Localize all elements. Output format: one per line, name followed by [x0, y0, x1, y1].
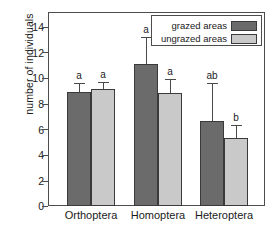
- y-tick-label-0: 0: [14, 201, 44, 212]
- legend: grazed areas ungrazed areas: [151, 15, 262, 46]
- bar-orthoptera-grazed[interactable]: [67, 92, 91, 206]
- bar-homoptera-ungrazed[interactable]: [158, 93, 182, 206]
- y-tick-label-12: 12: [14, 48, 44, 59]
- errorbar-cap-orthoptera-ungrazed: [98, 82, 109, 83]
- legend-item-grazed[interactable]: grazed areas: [152, 19, 261, 32]
- errorbar-cap-heteroptera-ungrazed: [231, 125, 242, 126]
- y-tick-label-4: 4: [14, 150, 44, 161]
- sig-letter-orthoptera-ungrazed: a: [93, 70, 113, 80]
- bar-heteroptera-ungrazed[interactable]: [224, 138, 248, 206]
- sig-letter-homoptera-ungrazed: a: [160, 67, 180, 77]
- legend-swatch-grazed-icon: [231, 21, 257, 31]
- errorbar-heteroptera-grazed: [212, 83, 213, 121]
- bar-heteroptera-grazed[interactable]: [200, 121, 224, 206]
- x-axis-label-heteroptera: Heteroptera: [184, 209, 264, 221]
- y-tick-label-8: 8: [14, 99, 44, 110]
- errorbar-orthoptera-grazed: [79, 83, 80, 92]
- bar-homoptera-grazed[interactable]: [134, 64, 158, 206]
- legend-label-ungrazed: ungrazed areas: [161, 34, 231, 44]
- sig-letter-orthoptera-grazed: a: [69, 71, 89, 81]
- y-tick-label-2: 2: [14, 176, 44, 187]
- legend-swatch-ungrazed-icon: [231, 34, 257, 44]
- bar-chart-figure: number of individuals 14 12 10 8 6 4 2 0…: [0, 0, 277, 235]
- sig-letter-heteroptera-grazed: ab: [201, 71, 223, 81]
- errorbar-cap-heteroptera-grazed: [207, 83, 218, 84]
- errorbar-orthoptera-ungrazed: [103, 82, 104, 89]
- legend-item-ungrazed[interactable]: ungrazed areas: [152, 32, 261, 45]
- sig-letter-heteroptera-ungrazed: b: [226, 113, 246, 123]
- errorbar-cap-orthoptera-grazed: [74, 83, 85, 84]
- y-tick-label-14: 14: [14, 22, 44, 33]
- legend-label-grazed: grazed areas: [172, 21, 231, 31]
- errorbar-homoptera-grazed: [146, 37, 147, 64]
- y-tick-label-10: 10: [14, 73, 44, 84]
- errorbar-heteroptera-ungrazed: [236, 125, 237, 138]
- errorbar-cap-homoptera-ungrazed: [165, 79, 176, 80]
- y-tick-label-6: 6: [14, 125, 44, 136]
- y-tick-mark-0: [42, 206, 48, 207]
- errorbar-homoptera-ungrazed: [170, 79, 171, 93]
- bar-orthoptera-ungrazed[interactable]: [91, 89, 115, 206]
